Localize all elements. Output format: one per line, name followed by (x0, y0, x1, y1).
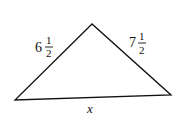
triangle (15, 24, 171, 100)
left-side-label: 6 1 2 (35, 34, 53, 59)
triangle-diagram: 6 1 2 7 1 2 x (0, 0, 177, 127)
right-numerator: 1 (139, 30, 145, 42)
bottom-side-label: x (86, 101, 93, 116)
left-numerator: 1 (46, 34, 52, 46)
right-side-label: 7 1 2 (129, 30, 146, 56)
left-whole: 6 (35, 40, 42, 55)
right-whole: 7 (129, 35, 136, 50)
right-denominator: 2 (139, 44, 145, 56)
left-denominator: 2 (46, 47, 52, 59)
